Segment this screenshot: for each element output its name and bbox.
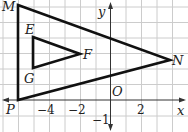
point-label-n: N	[171, 53, 184, 68]
x-axis-label: x	[177, 103, 185, 118]
x-axis-arrow-icon	[179, 98, 186, 103]
y-axis-arrow-icon	[108, 2, 113, 9]
point-label-g: G	[24, 71, 34, 86]
y-axis-label: y	[97, 4, 106, 19]
triangle-efg	[33, 37, 80, 68]
point-label-p: P	[5, 102, 15, 117]
x-tick-2: 2	[137, 103, 145, 117]
triangle-mnp	[18, 5, 170, 100]
point-label-e: E	[24, 22, 35, 37]
point-label-f: F	[82, 47, 93, 62]
x-tick-neg2: −2	[68, 103, 86, 117]
coordinate-diagram: M N P E F G x y O −4 −2 2 −1	[0, 0, 188, 132]
point-label-m: M	[1, 0, 16, 14]
origin-label: O	[112, 84, 123, 99]
y-tick-neg1: −1	[92, 113, 110, 127]
x-tick-neg4: −4	[37, 103, 55, 117]
